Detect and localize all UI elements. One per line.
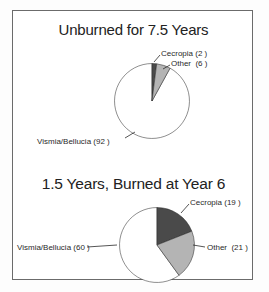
figure-frame: Unburned for 7.5 Years Cecropia (2 ) Ot (12, 10, 253, 280)
chart-panel-unburned: Unburned for 7.5 Years Cecropia (2 ) Ot (13, 11, 254, 151)
label-other-burned: Other (21 ) (207, 243, 248, 253)
label-cecropia-burned: Cecropia (19 ) (190, 198, 241, 208)
chart-panel-burned: 1.5 Years, Burned at Year 6 Cecropia (19… (13, 151, 254, 281)
label-vismia-burned: Vismia/Bellucia (60 ) (17, 243, 90, 253)
figure-canvas: Unburned for 7.5 Years Cecropia (2 ) Ot (0, 0, 269, 292)
label-cecropia-unburned: Cecropia (2 ) (161, 49, 207, 59)
label-other-unburned: Other (6 ) (171, 59, 207, 69)
label-vismia-unburned: Vismia/Bellucia (92 ) (37, 137, 110, 147)
leader-lines-unburned (13, 11, 254, 151)
leader-lines-burned (13, 151, 254, 281)
